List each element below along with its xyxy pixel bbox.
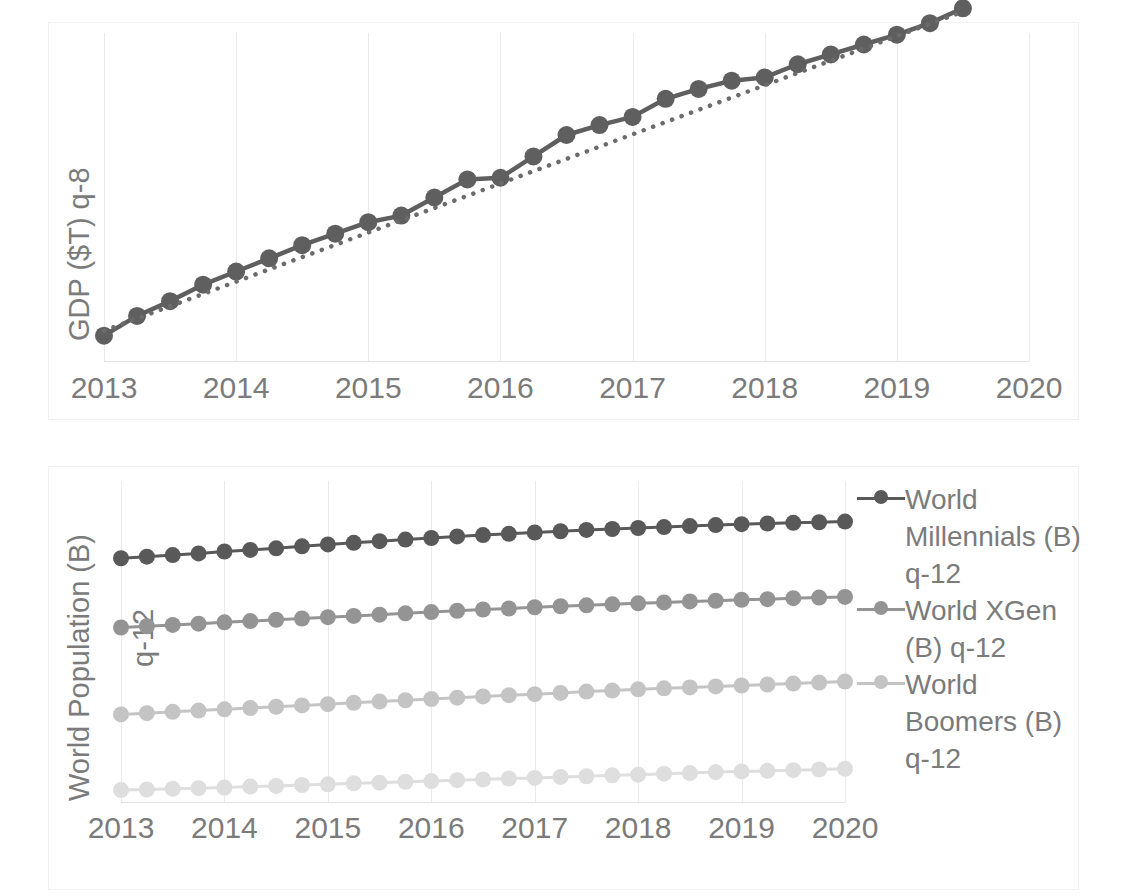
data-point (449, 603, 465, 619)
gdp-plot-area (104, 33, 1029, 362)
data-point (527, 686, 543, 702)
data-point (242, 779, 258, 795)
data-point (837, 589, 853, 605)
data-point (475, 601, 491, 617)
data-point (372, 533, 388, 549)
data-point (191, 545, 207, 561)
data-point (656, 519, 672, 535)
legend-label: World Millennials (B) q-12 (905, 481, 1090, 592)
legend-label: World XGen (B) q-12 (905, 592, 1090, 666)
data-point (759, 677, 775, 693)
data-point (630, 767, 646, 783)
data-point (527, 770, 543, 786)
data-point (294, 538, 310, 554)
data-point (630, 520, 646, 536)
x-tick-label-2013: 2013 (71, 371, 138, 405)
series-canvas (121, 481, 845, 803)
legend-entry-2[interactable]: World Boomers (B) q-12 (857, 666, 1090, 777)
data-point (242, 700, 258, 716)
data-point (294, 777, 310, 793)
x-tick-label-2017: 2017 (501, 811, 568, 845)
data-point (734, 677, 750, 693)
x-tick-label-2014: 2014 (191, 811, 258, 845)
series-canvas (104, 33, 1029, 362)
data-point (475, 688, 491, 704)
data-point (604, 683, 620, 699)
data-point (268, 699, 284, 715)
data-point (242, 613, 258, 629)
data-point (423, 530, 439, 546)
data-point (165, 617, 181, 633)
x-tick-label-2020: 2020 (812, 811, 879, 845)
data-point (501, 526, 517, 542)
data-point (708, 678, 724, 694)
x-tick-label-2015: 2015 (335, 371, 402, 405)
data-point (268, 612, 284, 628)
gdp-y-axis-label: GDP ($T) q-8 (63, 167, 96, 341)
data-point (359, 213, 377, 231)
data-point (392, 207, 410, 225)
data-point (656, 594, 672, 610)
data-point (449, 528, 465, 544)
data-point (165, 547, 181, 563)
data-point (759, 591, 775, 607)
data-point (682, 593, 698, 609)
data-point (139, 705, 155, 721)
data-point (524, 147, 542, 165)
data-point (501, 771, 517, 787)
data-point (837, 674, 853, 690)
x-tick-label-2013: 2013 (88, 811, 155, 845)
data-point (346, 535, 362, 551)
data-point (630, 595, 646, 611)
data-point (423, 773, 439, 789)
x-tick-label-2019: 2019 (708, 811, 775, 845)
data-point (449, 690, 465, 706)
data-point (759, 763, 775, 779)
data-point (113, 782, 129, 798)
data-point (811, 675, 827, 691)
data-point (242, 542, 258, 558)
legend-entry-1[interactable]: World XGen (B) q-12 (857, 592, 1090, 666)
data-point (423, 691, 439, 707)
data-point (320, 536, 336, 552)
population-x-tick-labels: 20132014201520162017201820192020 (121, 811, 845, 861)
x-tick-label-2018: 2018 (731, 371, 798, 405)
data-point (837, 514, 853, 530)
data-point (139, 618, 155, 634)
data-point (682, 518, 698, 534)
data-point (372, 694, 388, 710)
data-point (260, 249, 278, 267)
data-point (346, 695, 362, 711)
data-point (604, 521, 620, 537)
data-point (624, 108, 642, 126)
data-point (656, 766, 672, 782)
data-point (578, 522, 594, 538)
data-point (372, 607, 388, 623)
legend-entry-0[interactable]: World Millennials (B) q-12 (857, 481, 1090, 592)
data-point (216, 701, 232, 717)
x-tick-label-2017: 2017 (599, 371, 666, 405)
data-point (734, 763, 750, 779)
data-point (397, 605, 413, 621)
data-point (553, 685, 569, 701)
data-point (113, 620, 129, 636)
data-point (191, 780, 207, 796)
data-point (811, 590, 827, 606)
data-point (320, 776, 336, 792)
data-point (785, 515, 801, 531)
data-point (690, 80, 708, 98)
data-point (785, 762, 801, 778)
data-point (423, 604, 439, 620)
data-point (734, 516, 750, 532)
data-point (604, 596, 620, 612)
data-point (553, 769, 569, 785)
legend-swatch-icon (857, 481, 905, 515)
data-point (578, 768, 594, 784)
data-point (553, 523, 569, 539)
data-point (811, 514, 827, 530)
data-point (165, 704, 181, 720)
data-point (139, 549, 155, 565)
series-line-1 (104, 12, 963, 331)
data-point (759, 516, 775, 532)
data-point (708, 593, 724, 609)
